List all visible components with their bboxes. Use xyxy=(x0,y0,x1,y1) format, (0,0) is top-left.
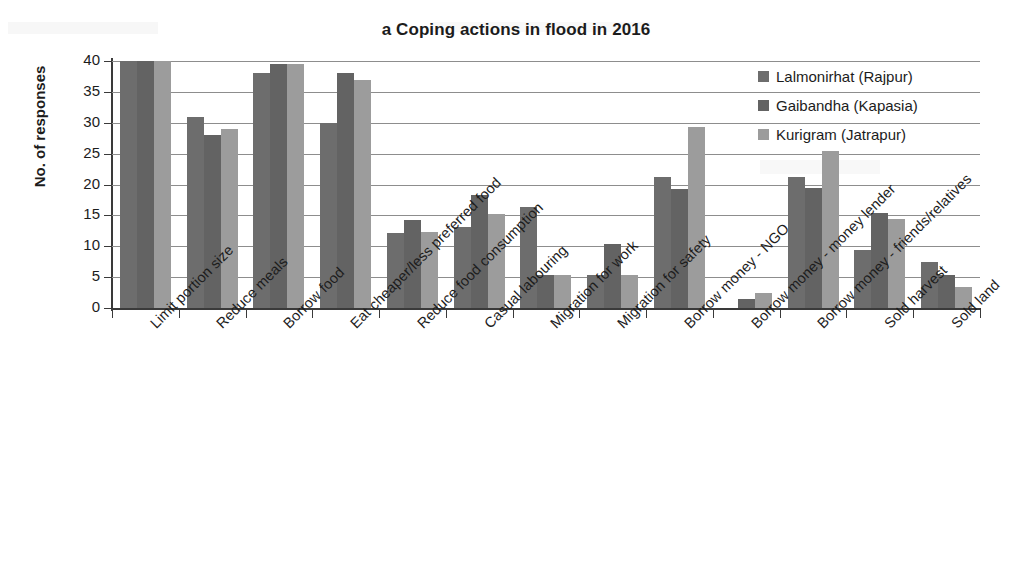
y-tick-label-30: 30 xyxy=(66,113,100,130)
bar xyxy=(738,299,755,308)
chart-title: a Coping actions in flood in 2016 xyxy=(0,20,1032,40)
y-tick-label-25: 25 xyxy=(66,144,100,161)
y-tick-label-40: 40 xyxy=(66,51,100,68)
y-tick-mark xyxy=(104,185,112,186)
bar xyxy=(120,61,137,308)
bar xyxy=(137,61,154,308)
x-tick-mark xyxy=(246,309,247,318)
y-tick-label-35: 35 xyxy=(66,82,100,99)
y-tick-label-15: 15 xyxy=(66,205,100,222)
bar xyxy=(287,64,304,308)
x-tick-mark xyxy=(312,309,313,318)
y-tick-mark xyxy=(104,277,112,278)
bar xyxy=(822,151,839,308)
legend-item[interactable]: Kurigram (Jatrapur) xyxy=(758,120,1020,149)
y-tick-mark xyxy=(104,154,112,155)
y-tick-label-20: 20 xyxy=(66,175,100,192)
legend-swatch-icon xyxy=(758,100,769,111)
legend-label: Lalmonirhat (Rajpur) xyxy=(776,68,913,85)
bar xyxy=(154,61,171,308)
y-tick-mark xyxy=(104,61,112,62)
y-tick-mark xyxy=(104,246,112,247)
bar-group xyxy=(312,61,379,308)
legend-label: Kurigram (Jatrapur) xyxy=(776,126,906,143)
y-tick-label-0: 0 xyxy=(66,298,100,315)
legend-item[interactable]: Lalmonirhat (Rajpur) xyxy=(758,62,1020,91)
y-tick-mark xyxy=(104,215,112,216)
legend-swatch-icon xyxy=(758,129,769,140)
y-axis-title: No. of responses xyxy=(31,32,48,222)
y-tick-label-10: 10 xyxy=(66,236,100,253)
bar xyxy=(354,80,371,308)
legend-swatch-icon xyxy=(758,71,769,82)
x-tick-mark xyxy=(913,309,914,318)
bar-group xyxy=(112,61,179,308)
x-tick-mark xyxy=(579,309,580,318)
legend-label: Gaibandha (Kapasia) xyxy=(776,97,918,114)
x-tick-mark xyxy=(846,309,847,318)
y-tick-mark xyxy=(104,123,112,124)
bar xyxy=(688,127,705,308)
y-axis-tick-labels: 0510152025303540 xyxy=(60,0,100,580)
y-tick-mark xyxy=(104,308,112,309)
chart-legend: Lalmonirhat (Rajpur)Gaibandha (Kapasia)K… xyxy=(758,62,1020,149)
y-tick-mark xyxy=(104,92,112,93)
coping-actions-bar-chart: a Coping actions in flood in 2016 No. of… xyxy=(0,0,1032,580)
x-tick-mark xyxy=(112,309,113,318)
y-tick-label-5: 5 xyxy=(66,267,100,284)
bar xyxy=(221,129,238,308)
legend-item[interactable]: Gaibandha (Kapasia) xyxy=(758,91,1020,120)
